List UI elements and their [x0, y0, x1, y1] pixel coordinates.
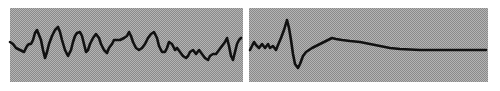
- waveform-trace-left: [10, 8, 243, 82]
- waveform-trace-right: [249, 8, 488, 82]
- waveform-panel-left: irregular oscillation: [10, 8, 243, 82]
- waveform-panel-right: spike then flat: [249, 8, 488, 82]
